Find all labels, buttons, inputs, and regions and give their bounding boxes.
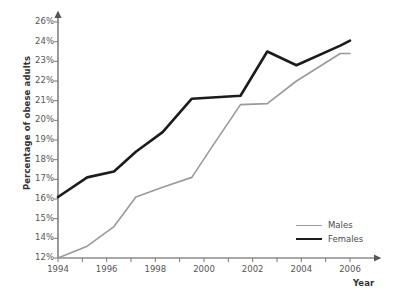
legend-line-males-icon [296,225,322,226]
line-chart: Percentage of obese adults Year 26%24%23… [0,0,393,300]
legend-label-females: Females [328,234,363,244]
legend-label-males: Males [328,220,353,230]
series-line-females [58,41,350,197]
legend-item-males[interactable]: Males [296,218,363,232]
chart-legend: Males Females [296,218,363,246]
plot-area [0,0,393,300]
legend-item-females[interactable]: Females [296,232,363,246]
legend-line-females-icon [296,238,322,240]
